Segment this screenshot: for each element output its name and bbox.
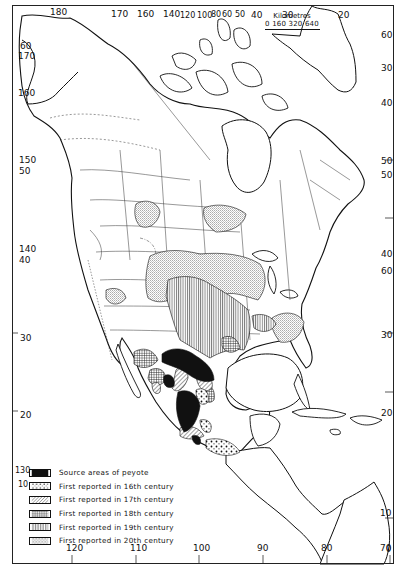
top-tick: 30 — [282, 10, 293, 20]
right-tick: 20 — [381, 408, 392, 418]
top-tick: 160 — [137, 9, 154, 19]
dots-swatch-icon — [29, 482, 51, 490]
legend-item-20th: First reported in 20th century — [29, 534, 209, 548]
bottom-tick: 80 — [321, 543, 332, 553]
legend-label: Source areas of peyote — [59, 468, 149, 477]
legend-label: First reported in 19th century — [59, 523, 174, 532]
left-tick: 170 — [18, 51, 35, 61]
left-tick: 40 — [19, 255, 30, 265]
diagonal-hatch-swatch-icon — [29, 496, 51, 504]
top-tick: 140 — [163, 9, 180, 19]
top-tick: 180 — [50, 7, 67, 17]
right-tick: 50 — [381, 170, 392, 180]
left-tick: 30 — [20, 333, 31, 343]
legend-item-17th: First reported in 17th century — [29, 493, 209, 507]
scale-line — [265, 29, 320, 33]
right-tick: 50 — [381, 156, 392, 166]
left-tick: 130 — [15, 466, 30, 476]
right-tick: 10 — [380, 508, 391, 518]
legend: Source areas of peyote First reported in… — [29, 466, 209, 548]
legend-item-16th: First reported in 16th century — [29, 480, 209, 494]
left-tick: 60 — [20, 41, 31, 51]
legend-label: First reported in 18th century — [59, 509, 174, 518]
top-tick: 60 — [222, 10, 232, 20]
top-tick: 100 — [197, 11, 212, 21]
top-tick: 40 — [251, 10, 262, 20]
legend-label: First reported in 16th century — [59, 482, 174, 491]
right-tick: 60 — [381, 266, 392, 276]
legend-item-source: Source areas of peyote — [29, 466, 209, 480]
left-tick: 10 — [18, 480, 28, 490]
top-tick: 170 — [111, 9, 128, 19]
top-tick: 80 — [211, 10, 221, 20]
left-tick: 20 — [20, 410, 31, 420]
top-tick: 120 — [180, 11, 195, 21]
left-tick: 50 — [19, 166, 30, 176]
right-tick: 60 — [381, 30, 392, 40]
right-tick: 30 — [381, 63, 392, 73]
legend-item-18th: First reported in 18th century — [29, 507, 209, 521]
crosshatch-swatch-icon — [29, 510, 51, 518]
fine-stipple-swatch-icon — [29, 537, 51, 545]
solid-black-swatch-icon — [29, 469, 51, 477]
legend-label: First reported in 20th century — [59, 536, 174, 545]
left-tick: 160 — [18, 88, 35, 98]
right-tick: 40 — [381, 249, 392, 259]
right-tick: 40 — [381, 98, 392, 108]
left-tick: 150 — [19, 155, 36, 165]
bottom-tick: 90 — [257, 543, 268, 553]
legend-label: First reported in 17th century — [59, 495, 174, 504]
right-tick: 0 — [386, 545, 391, 555]
top-tick: 20 — [338, 10, 349, 20]
right-tick: 30 — [381, 330, 392, 340]
legend-item-19th: First reported in 19th century — [29, 520, 209, 534]
scale-ticks: 0 160 320 640 — [262, 20, 322, 28]
top-tick: 50 — [235, 10, 245, 20]
vertical-lines-swatch-icon — [29, 523, 51, 531]
left-tick: 140 — [19, 244, 36, 254]
